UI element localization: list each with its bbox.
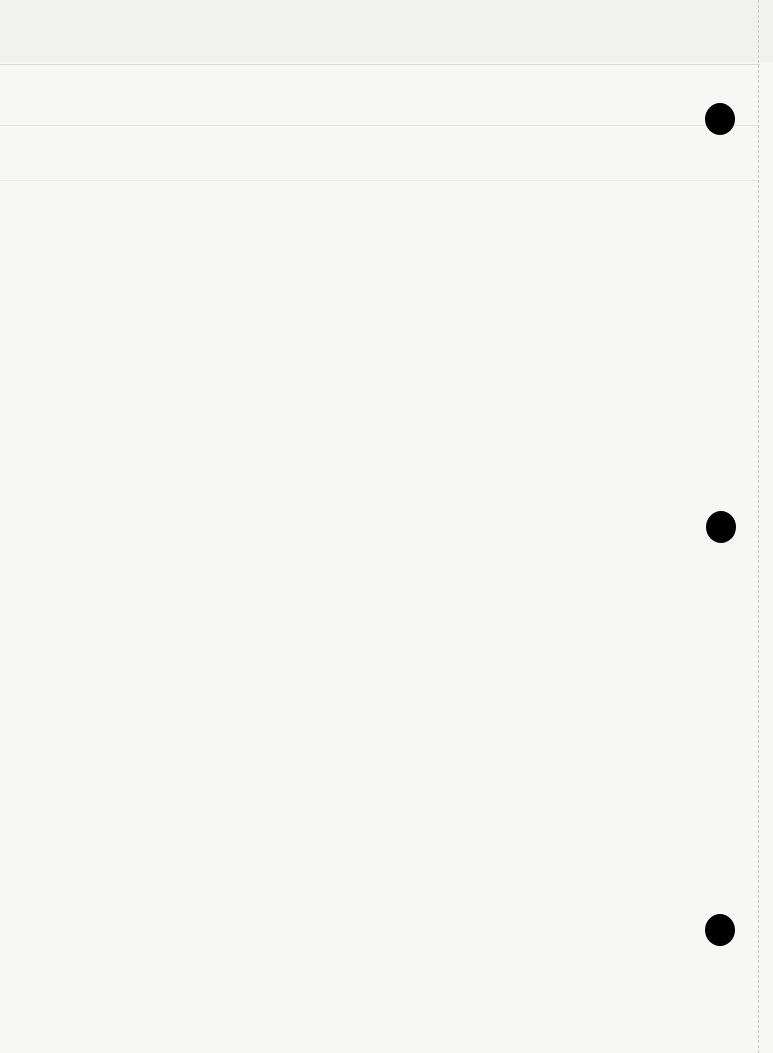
- punch-hole: [705, 914, 735, 946]
- ruled-line: [0, 64, 760, 65]
- ruled-line: [0, 180, 760, 181]
- perforation-line: [758, 0, 759, 1053]
- punch-hole: [705, 103, 735, 135]
- top-header-band: [0, 0, 773, 62]
- ruled-line: [0, 125, 760, 126]
- punch-hole: [706, 511, 736, 543]
